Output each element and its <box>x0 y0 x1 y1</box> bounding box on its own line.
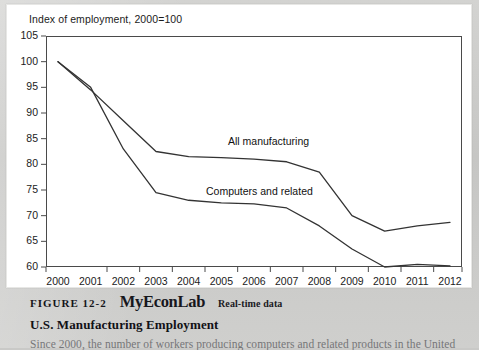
y-axis-tick-label: 80 <box>10 157 38 169</box>
x-axis-tick-label: 2003 <box>138 275 174 287</box>
series-label-computers-and-related: Computers and related <box>206 185 313 197</box>
y-axis-tick-marks <box>41 36 46 267</box>
chart-series-lines <box>58 62 450 267</box>
x-axis-tick-label: 2012 <box>432 275 468 287</box>
y-axis-tick-label: 60 <box>10 260 38 272</box>
y-axis-tick-label: 95 <box>10 80 38 92</box>
x-axis-tick-label: 2010 <box>367 275 403 287</box>
figure-number-label: FIGURE 12-2 <box>30 297 107 309</box>
x-axis-tick-label: 2002 <box>105 275 141 287</box>
figure-panel: Index of employment, 2000=100 1051009590… <box>6 4 472 288</box>
y-axis-tick-label: 85 <box>10 132 38 144</box>
x-axis-tick-label: 2006 <box>236 275 272 287</box>
figure-caption: FIGURE 12-2 MyEconLab Real-time data U.S… <box>30 292 470 350</box>
x-axis-tick-marks <box>46 267 462 272</box>
x-axis-tick-label: 2000 <box>40 275 76 287</box>
y-axis-tick-label: 90 <box>10 106 38 118</box>
x-axis-tick-label: 2009 <box>334 275 370 287</box>
x-axis-tick-label: 2004 <box>171 275 207 287</box>
y-axis-tick-label: 65 <box>10 234 38 246</box>
x-axis-tick-label: 2011 <box>399 275 435 287</box>
caption-header-row: FIGURE 12-2 MyEconLab Real-time data <box>30 292 470 312</box>
x-axis-tick-label: 2005 <box>203 275 239 287</box>
y-axis-tick-label: 105 <box>10 29 38 41</box>
figure-title: U.S. Manufacturing Employment <box>30 317 470 333</box>
figure-body-text: Since 2000, the number of workers produc… <box>30 338 470 350</box>
series-label-all-manufacturing: All manufacturing <box>228 135 309 147</box>
myeconlab-logo: MyEconLab <box>120 292 205 312</box>
y-axis-tick-label: 75 <box>10 183 38 195</box>
y-axis-tick-label: 100 <box>10 55 38 67</box>
x-axis-tick-label: 2007 <box>269 275 305 287</box>
real-time-data-tag: Real-time data <box>218 298 282 309</box>
y-axis-tick-label: 70 <box>10 209 38 221</box>
x-axis-tick-label: 2001 <box>73 275 109 287</box>
x-axis-tick-label: 2008 <box>301 275 337 287</box>
